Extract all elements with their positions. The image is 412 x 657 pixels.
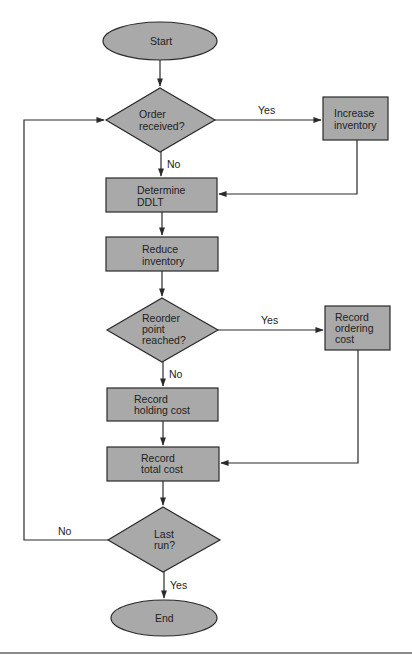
record-total-cost-line-2: total cost xyxy=(141,463,183,475)
increase-inventory-line-2: inventory xyxy=(334,119,377,131)
bottom-rule xyxy=(0,652,412,654)
reduce-inventory-line-1: Reduce xyxy=(142,243,178,255)
label-order-no: No xyxy=(167,158,181,170)
label-order-yes: Yes xyxy=(258,104,275,116)
node-start: Start xyxy=(103,22,217,60)
node-record-holding-cost: Record holding cost xyxy=(107,388,218,421)
reduce-inventory-line-2: inventory xyxy=(142,255,185,267)
order-received-line-1: Order xyxy=(139,108,166,120)
record-ordering-cost-line-3: cost xyxy=(335,333,354,345)
label-last-yes: Yes xyxy=(170,579,187,591)
reorder-point-line-3: reached? xyxy=(142,334,186,346)
flowchart-canvas: Yes No Yes No No Yes Start Order receive… xyxy=(0,0,412,657)
node-order-received: Order received? xyxy=(106,88,215,152)
label-reorder-no: No xyxy=(169,368,183,380)
start-label: Start xyxy=(150,35,172,47)
determine-ddlt-line-1: Determine xyxy=(137,184,186,196)
label-last-no: No xyxy=(58,525,72,537)
record-holding-cost-line-2: holding cost xyxy=(134,404,190,416)
node-end: End xyxy=(111,600,217,636)
node-record-ordering-cost: Record ordering cost xyxy=(325,306,390,350)
edge-last-no-loop xyxy=(24,120,108,540)
node-record-total-cost: Record total cost xyxy=(107,447,219,481)
label-reorder-yes: Yes xyxy=(261,314,278,326)
end-label: End xyxy=(155,612,174,624)
edge-ordering-to-total xyxy=(221,350,358,463)
node-last-run: Last run? xyxy=(108,507,220,572)
node-increase-inventory: Increase inventory xyxy=(323,97,388,140)
node-reorder-point: Reorder point reached? xyxy=(107,298,218,362)
determine-ddlt-line-2: DDLT xyxy=(137,196,164,208)
order-received-line-2: received? xyxy=(139,120,185,132)
node-reduce-inventory: Reduce inventory xyxy=(106,237,218,271)
last-run-line-2: run? xyxy=(154,539,175,551)
node-determine-ddlt: Determine DDLT xyxy=(106,178,217,212)
edge-increase-to-ddlt xyxy=(219,140,357,194)
increase-inventory-line-1: Increase xyxy=(334,107,374,119)
